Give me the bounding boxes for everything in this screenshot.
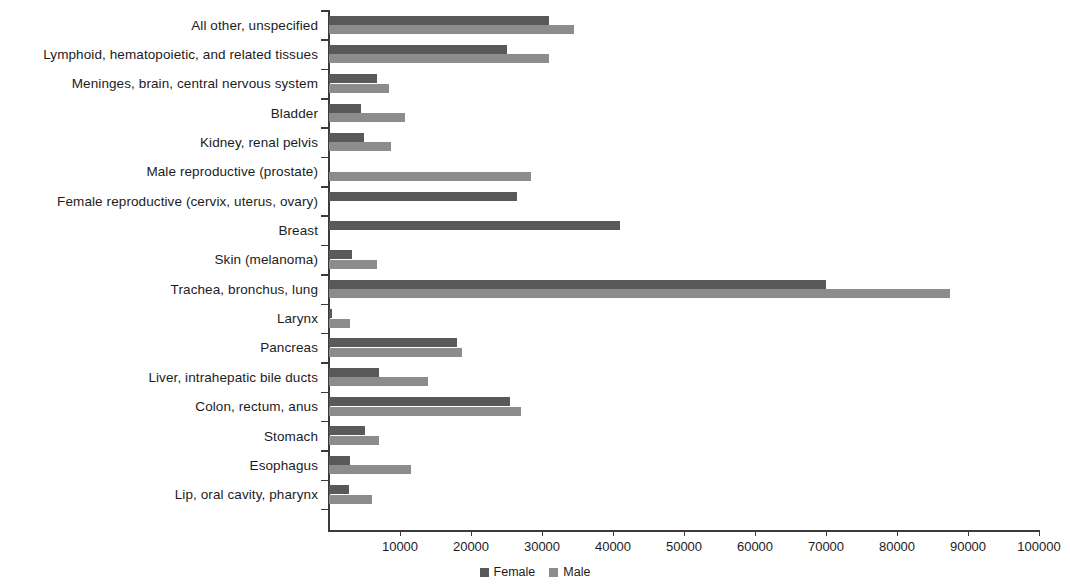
- bar-male: [329, 172, 531, 181]
- bar-male: [329, 348, 462, 357]
- x-axis-tick-label: 80000: [879, 539, 915, 554]
- y-axis-tick: [321, 333, 329, 335]
- bar-female: [329, 45, 507, 54]
- y-axis-tick: [321, 39, 329, 41]
- bar-female: [329, 338, 457, 347]
- table-row: Esophagus: [0, 450, 1070, 479]
- table-row: Skin (melanoma): [0, 245, 1070, 274]
- bar-male: [329, 436, 379, 445]
- table-row: Liver, intrahepatic bile ducts: [0, 362, 1070, 391]
- table-row: All other, unspecified: [0, 10, 1070, 39]
- table-row: Larynx: [0, 304, 1070, 333]
- y-axis-tick: [321, 421, 329, 423]
- y-axis-tick: [321, 509, 329, 511]
- bar-male: [329, 260, 377, 269]
- x-axis-tick: [613, 531, 614, 536]
- bar-female: [329, 426, 365, 435]
- y-axis-tick: [321, 304, 329, 306]
- table-row: Lymphoid, hematopoietic, and related tis…: [0, 39, 1070, 68]
- y-axis-tick: [321, 450, 329, 452]
- category-label: Female reproductive (cervix, uterus, ova…: [57, 193, 318, 208]
- category-label: Male reproductive (prostate): [146, 164, 318, 179]
- category-label: Larynx: [277, 311, 318, 326]
- x-axis-tick: [684, 531, 685, 536]
- table-row: Male reproductive (prostate): [0, 157, 1070, 186]
- table-row: Colon, rectum, anus: [0, 392, 1070, 421]
- x-axis-tick-label: 20000: [453, 539, 489, 554]
- x-axis-tick-label: 50000: [666, 539, 702, 554]
- x-axis-tick: [826, 531, 827, 536]
- table-row: Stomach: [0, 421, 1070, 450]
- x-axis-tick: [400, 531, 401, 536]
- bar-female: [329, 192, 517, 201]
- x-axis-tick: [755, 531, 756, 536]
- table-row: Bladder: [0, 98, 1070, 127]
- bar-male: [329, 113, 405, 122]
- bar-female: [329, 250, 352, 259]
- y-axis-tick: [321, 127, 329, 129]
- table-row: Female reproductive (cervix, uterus, ova…: [0, 186, 1070, 215]
- bar-female: [329, 133, 364, 142]
- bar-male: [329, 377, 428, 386]
- x-axis-tick: [471, 531, 472, 536]
- bar-female: [329, 368, 379, 377]
- x-axis-tick: [1039, 531, 1040, 536]
- bar-male: [329, 407, 521, 416]
- bar-male: [329, 25, 574, 34]
- category-label: Breast: [278, 223, 318, 238]
- x-axis-tick-label: 60000: [737, 539, 773, 554]
- bar-female: [329, 280, 826, 289]
- table-row: Kidney, renal pelvis: [0, 127, 1070, 156]
- legend-swatch-icon: [549, 568, 558, 577]
- table-row: Pancreas: [0, 333, 1070, 362]
- bar-female: [329, 74, 377, 83]
- legend-label: Female: [494, 565, 536, 579]
- y-axis-tick: [321, 186, 329, 188]
- bar-female: [329, 104, 361, 113]
- category-label: All other, unspecified: [191, 17, 318, 32]
- legend-item: Male: [549, 565, 590, 579]
- bar-female: [329, 397, 510, 406]
- x-axis-tick-label: 70000: [808, 539, 844, 554]
- y-axis-tick: [321, 245, 329, 247]
- category-label: Kidney, renal pelvis: [200, 135, 318, 150]
- y-axis-tick: [321, 157, 329, 159]
- category-label: Lip, oral cavity, pharynx: [175, 487, 318, 502]
- bar-male: [329, 289, 950, 298]
- y-axis-tick: [321, 480, 329, 482]
- bar-female: [329, 485, 349, 494]
- legend-item: Female: [480, 565, 536, 579]
- category-label: Liver, intrahepatic bile ducts: [148, 369, 318, 384]
- table-row: Trachea, bronchus, lung: [0, 274, 1070, 303]
- x-axis-tick: [968, 531, 969, 536]
- table-row: Breast: [0, 215, 1070, 244]
- bar-female: [329, 221, 620, 230]
- y-axis-tick: [321, 10, 329, 12]
- bar-male: [329, 142, 391, 151]
- plot-area: All other, unspecifiedLymphoid, hematopo…: [0, 0, 1070, 531]
- bar-male: [329, 54, 549, 63]
- category-label: Trachea, bronchus, lung: [171, 281, 318, 296]
- x-axis-tick: [897, 531, 898, 536]
- table-row: Lip, oral cavity, pharynx: [0, 480, 1070, 509]
- x-axis-tick-label: 40000: [595, 539, 631, 554]
- y-axis-tick: [321, 362, 329, 364]
- bar-male: [329, 495, 372, 504]
- category-label: Meninges, brain, central nervous system: [72, 76, 318, 91]
- legend-swatch-icon: [480, 568, 489, 577]
- y-axis-tick: [321, 69, 329, 71]
- category-label: Esophagus: [250, 457, 318, 472]
- category-label: Colon, rectum, anus: [195, 399, 318, 414]
- x-axis-tick-label: 100000: [1017, 539, 1060, 554]
- category-label: Pancreas: [260, 340, 318, 355]
- table-row: Meninges, brain, central nervous system: [0, 69, 1070, 98]
- category-label: Skin (melanoma): [214, 252, 318, 267]
- chart-legend: FemaleMale: [0, 565, 1070, 579]
- y-axis-tick: [321, 98, 329, 100]
- bar-female: [329, 309, 332, 318]
- x-axis-tick: [542, 531, 543, 536]
- y-axis-tick: [321, 215, 329, 217]
- cancer-incidence-bar-chart: All other, unspecifiedLymphoid, hematopo…: [0, 0, 1070, 588]
- category-label: Lymphoid, hematopoietic, and related tis…: [43, 46, 318, 61]
- category-label: Stomach: [264, 428, 318, 443]
